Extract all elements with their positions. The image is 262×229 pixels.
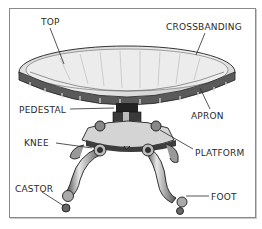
label-foot: FOOT: [211, 192, 237, 202]
legs: [62, 144, 187, 215]
label-castor: CASTOR: [15, 184, 53, 194]
leader-castor: [42, 192, 64, 206]
leader-pedestal: [70, 108, 114, 109]
label-top: TOP: [41, 17, 60, 27]
label-platform: PLATFORM: [195, 148, 244, 158]
leader-crossbanding: [196, 33, 205, 55]
label-crossbanding: CROSSBANDING: [166, 22, 242, 32]
label-knee: KNEE: [24, 138, 49, 148]
label-apron: APRON: [191, 111, 224, 121]
label-pedestal: PEDESTAL: [19, 105, 66, 115]
